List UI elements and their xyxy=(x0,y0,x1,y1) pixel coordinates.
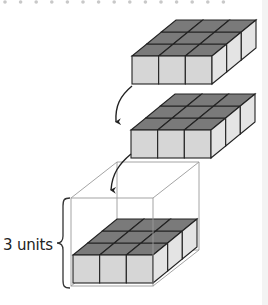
cube-front xyxy=(184,130,211,158)
cube-layers xyxy=(73,20,256,283)
height-label: 3 units xyxy=(3,236,53,254)
box-edge xyxy=(153,162,199,198)
dot xyxy=(159,0,163,4)
cube-front xyxy=(185,56,212,84)
dot xyxy=(97,0,101,4)
dot xyxy=(3,0,7,4)
dot xyxy=(175,0,179,4)
dot xyxy=(206,0,210,4)
cube-layer-in-box xyxy=(73,219,197,283)
cube-layers-diagram xyxy=(0,0,268,305)
cube-front xyxy=(158,130,185,158)
dot xyxy=(19,0,23,4)
dot xyxy=(190,0,194,4)
arrow-down-1 xyxy=(116,86,132,122)
dot xyxy=(222,0,226,4)
cube-front xyxy=(126,255,153,283)
dot xyxy=(144,0,148,4)
cube-front xyxy=(132,56,159,84)
box-edge xyxy=(71,162,117,198)
dotted-border xyxy=(3,0,225,4)
move-arrows xyxy=(111,86,132,190)
cube-front xyxy=(131,130,158,158)
cube-front xyxy=(100,255,127,283)
height-brace xyxy=(57,198,70,288)
cube-front xyxy=(73,255,100,283)
dot xyxy=(34,0,38,4)
cube-layer-middle xyxy=(131,94,255,158)
dot xyxy=(66,0,70,4)
arrow-down-2 xyxy=(111,154,131,190)
dot xyxy=(81,0,85,4)
cube-layer-top xyxy=(132,20,256,84)
dot xyxy=(50,0,54,4)
cube-front xyxy=(159,56,186,84)
dot xyxy=(128,0,132,4)
dot xyxy=(112,0,116,4)
